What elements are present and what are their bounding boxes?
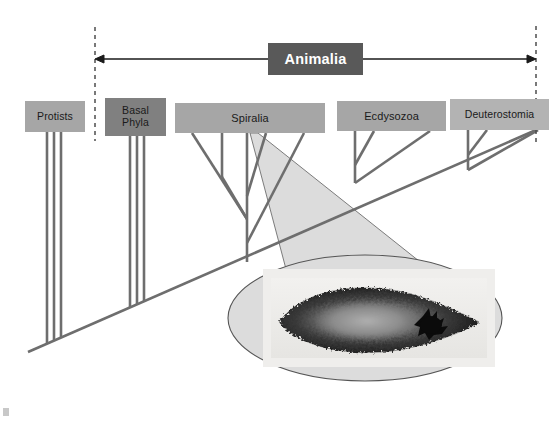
clade-label-deuterostomia: Deuterostomia [465, 109, 535, 121]
animalia-banner-label: Animalia [284, 51, 346, 67]
clade-box-basal-phyla[interactable]: Basal Phyla [105, 98, 166, 136]
clade-box-spiralia[interactable]: Spiralia [175, 103, 325, 133]
clade-box-deuterostomia[interactable]: Deuterostomia [450, 99, 549, 130]
flatworm-illustration [271, 278, 487, 358]
clade-label-ecdysozoa: Ecdysozoa [364, 110, 419, 122]
flatworm-photo [263, 269, 495, 367]
clade-label-protists: Protists [37, 111, 73, 123]
corner-artifact-mark [3, 408, 9, 416]
animalia-banner: Animalia [268, 43, 363, 75]
clade-label-spiralia: Spiralia [231, 112, 269, 124]
diagram-canvas: Protists Basal Phyla Spiralia Ecdysozoa … [0, 0, 560, 423]
clade-label-basal-phyla: Basal Phyla [122, 105, 149, 129]
clade-box-ecdysozoa[interactable]: Ecdysozoa [337, 101, 446, 131]
clade-box-protists[interactable]: Protists [25, 101, 85, 132]
